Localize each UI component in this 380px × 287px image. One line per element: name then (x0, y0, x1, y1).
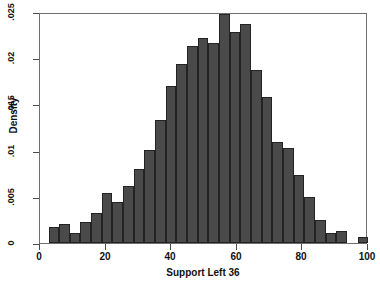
histogram-bars (40, 14, 366, 243)
y-axis-tick (33, 152, 39, 153)
histogram-bar (166, 86, 177, 243)
y-axis-tick-label: .025 (6, 0, 16, 32)
histogram-bar (70, 233, 80, 243)
histogram-bar (240, 24, 250, 243)
plot-area (39, 13, 367, 244)
histogram-bar (80, 222, 91, 243)
histogram-bar (251, 70, 262, 243)
histogram-bar (144, 150, 155, 243)
y-axis-tick-label: .005 (6, 177, 16, 217)
histogram-bar (176, 64, 186, 243)
histogram-bar (336, 231, 347, 243)
x-axis-tick-label: 20 (85, 251, 125, 262)
histogram-bar (59, 224, 70, 243)
histogram-bar (49, 227, 59, 243)
y-axis-title: Density (8, 86, 19, 146)
histogram-bar (134, 169, 144, 243)
x-axis-tick (367, 244, 368, 250)
histogram-bar (198, 38, 208, 243)
x-axis-title: Support Left 36 (39, 267, 367, 278)
histogram-bar (208, 43, 219, 244)
histogram-bar (304, 197, 314, 243)
histogram-bar (155, 120, 165, 243)
x-axis-tick-label: 60 (216, 251, 256, 262)
x-axis-tick-label: 80 (281, 251, 321, 262)
histogram-figure: 0.005.01.015.02.025 020406080100 Density… (0, 0, 380, 287)
x-axis-tick-label: 40 (150, 251, 190, 262)
y-axis-tick-label: 0 (6, 223, 16, 263)
x-axis-tick (170, 244, 171, 250)
histogram-bar (112, 202, 122, 243)
x-axis-tick (236, 244, 237, 250)
histogram-bar (315, 220, 326, 243)
histogram-bar (230, 32, 241, 243)
histogram-bar (187, 46, 198, 243)
x-axis-tick (39, 244, 40, 250)
histogram-bar (358, 237, 368, 243)
histogram-bar (283, 148, 293, 243)
histogram-bar (102, 193, 113, 243)
x-axis-tick (301, 244, 302, 250)
histogram-bar (294, 175, 305, 243)
y-axis-tick (33, 105, 39, 106)
y-axis-tick (33, 198, 39, 199)
x-axis-tick (105, 244, 106, 250)
histogram-bar (123, 186, 134, 243)
x-axis-tick-label: 0 (19, 251, 59, 262)
histogram-bar (272, 142, 283, 243)
x-axis-tick-label: 100 (347, 251, 380, 262)
y-axis-tick (33, 13, 39, 14)
histogram-bar (326, 233, 336, 243)
y-axis-tick-label: .02 (6, 38, 16, 78)
histogram-bar (262, 97, 272, 243)
y-axis-tick (33, 59, 39, 60)
histogram-bar (219, 14, 229, 243)
histogram-bar (91, 213, 101, 243)
